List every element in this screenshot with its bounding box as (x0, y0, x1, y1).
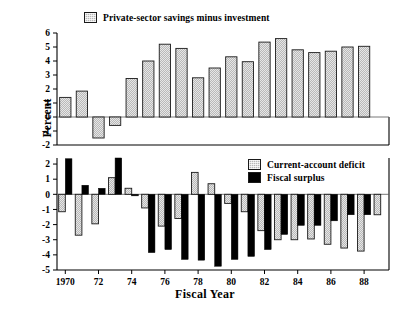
bottom-panel-bar-current-account (92, 194, 99, 224)
bottom-panel-xtick-label: 76 (160, 277, 170, 287)
top-panel-bar (342, 47, 353, 117)
bottom-panel-bar-current-account (75, 194, 82, 235)
top-panel-bar (143, 61, 154, 117)
bottom-panel-bar-fiscal-surplus (231, 194, 238, 259)
bottom-panel-bar-current-account (258, 194, 265, 230)
bottom-panel-bar-current-account (125, 188, 132, 194)
top-panel-bar (325, 51, 336, 117)
bottom-panel-xtick-label: 72 (94, 277, 104, 287)
bottom-panel-ytick-label: -3 (42, 235, 50, 245)
top-panel-bar (159, 44, 170, 117)
bottom-panel: 210-1-2-3-4-51970727476788082848688 (42, 158, 389, 287)
bottom-panel-bar-current-account (291, 194, 298, 239)
bottom-panel-xtick-label: 78 (193, 277, 203, 287)
bottom-panel-bar-fiscal-surplus (298, 194, 305, 225)
bottom-panel-ytick-label: 0 (45, 190, 50, 200)
bottom-panel-bar-current-account (374, 194, 381, 214)
bottom-panel-xtick-label: 74 (127, 277, 137, 287)
bottom-panel-bar-current-account (241, 194, 248, 211)
legend-label-private-sector: Private-sector savings minus investment (103, 13, 270, 23)
top-panel-bar (192, 78, 203, 117)
bottom-panel-bar-fiscal-surplus (115, 158, 122, 194)
top-panel-bar (209, 68, 220, 117)
legend-fiscal-surplus: Fiscal surplus (248, 172, 325, 183)
bottom-panel-bar-fiscal-surplus (198, 194, 205, 260)
bottom-panel-bar-fiscal-surplus (281, 194, 288, 234)
legend-label-fiscal-surplus: Fiscal surplus (267, 173, 325, 183)
top-panel-ytick-label: 5 (45, 42, 50, 52)
bottom-panel-ytick-label: -5 (42, 265, 50, 275)
x-axis-title: Fiscal Year (0, 287, 410, 302)
bottom-panel-bar-current-account (158, 194, 165, 226)
bottom-panel-bar-fiscal-surplus (265, 194, 272, 249)
legend-swatch-current-account-icon (248, 159, 261, 170)
bottom-panel-ytick-label: -4 (42, 250, 50, 260)
bottom-panel-bar-fiscal-surplus (82, 185, 89, 194)
bottom-panel-ytick-label: -2 (42, 220, 50, 230)
bottom-panel-bar-fiscal-surplus (148, 194, 155, 252)
top-panel-bar (275, 39, 286, 117)
bottom-panel-bar-fiscal-surplus (215, 194, 222, 266)
legend-top-panel: Private-sector savings minus investment (84, 12, 270, 23)
bottom-panel-bar-current-account (274, 194, 281, 239)
bottom-panel-bar-current-account (175, 194, 182, 218)
bottom-panel-bar-fiscal-surplus (65, 159, 72, 195)
legend-current-account-deficit: Current-account deficit (248, 159, 365, 170)
bottom-panel-xtick-label: 86 (326, 277, 336, 287)
bottom-panel-xtick-label: 1970 (56, 277, 75, 287)
legend-label-current-account: Current-account deficit (267, 160, 365, 170)
legend-swatch-private-sector-icon (84, 12, 97, 23)
bottom-panel-bar-current-account (225, 194, 232, 203)
bottom-panel-bar-current-account (341, 194, 348, 248)
bottom-panel-bar-fiscal-surplus (132, 194, 139, 196)
top-panel-bar (176, 48, 187, 117)
top-panel-ytick-label: 6 (45, 28, 50, 38)
bottom-panel-bar-current-account (108, 178, 115, 195)
top-panel-bar (126, 79, 137, 118)
bottom-panel-bar-fiscal-surplus (314, 194, 321, 225)
top-panel: -2-10123456 (42, 28, 389, 150)
bottom-panel-bar-fiscal-surplus (165, 194, 172, 249)
bottom-panel-bar-current-account (142, 194, 149, 208)
bottom-panel-bar-fiscal-surplus (348, 194, 355, 214)
bottom-panel-bar-current-account (308, 194, 315, 239)
top-panel-bar (358, 46, 369, 117)
bottom-panel-ytick-label: -1 (42, 205, 50, 215)
bottom-panel-bar-fiscal-surplus (182, 194, 189, 259)
bottom-panel-bar-fiscal-surplus (364, 194, 371, 214)
bottom-panel-bar-fiscal-surplus (331, 194, 338, 220)
top-panel-bar (309, 53, 320, 117)
top-panel-bar (60, 97, 71, 117)
bottom-panel-xtick-label: 88 (359, 277, 369, 287)
bottom-panel-xtick-label: 80 (227, 277, 237, 287)
top-panel-bar (93, 117, 104, 138)
chart-canvas: -2-10123456 210-1-2-3-4-5197072747678808… (0, 0, 410, 313)
top-panel-bar (242, 62, 253, 117)
y-axis-title: Percent (41, 73, 53, 163)
top-panel-bar (259, 42, 270, 117)
bottom-panel-bar-current-account (324, 194, 331, 244)
bottom-panel-bar-current-account (208, 184, 215, 195)
bottom-panel-bar-current-account (357, 194, 364, 251)
top-panel-bar (76, 91, 87, 117)
top-panel-bar (226, 57, 237, 117)
bottom-panel-xtick-label: 82 (260, 277, 270, 287)
bottom-panel-bar-current-account (59, 194, 66, 211)
legend-swatch-fiscal-surplus-icon (248, 172, 261, 183)
bottom-panel-ytick-label: 1 (45, 174, 50, 184)
bottom-panel-bar-fiscal-surplus (99, 188, 106, 194)
top-panel-bar (292, 50, 303, 117)
bottom-panel-xtick-label: 84 (293, 277, 303, 287)
top-panel-bar (109, 117, 120, 125)
bottom-panel-bar-current-account (191, 172, 198, 194)
bottom-panel-bar-fiscal-surplus (248, 194, 255, 256)
chart-figure: Percent Fiscal Year Private-sector savin… (0, 0, 410, 313)
top-panel-ytick-label: 4 (45, 56, 50, 66)
